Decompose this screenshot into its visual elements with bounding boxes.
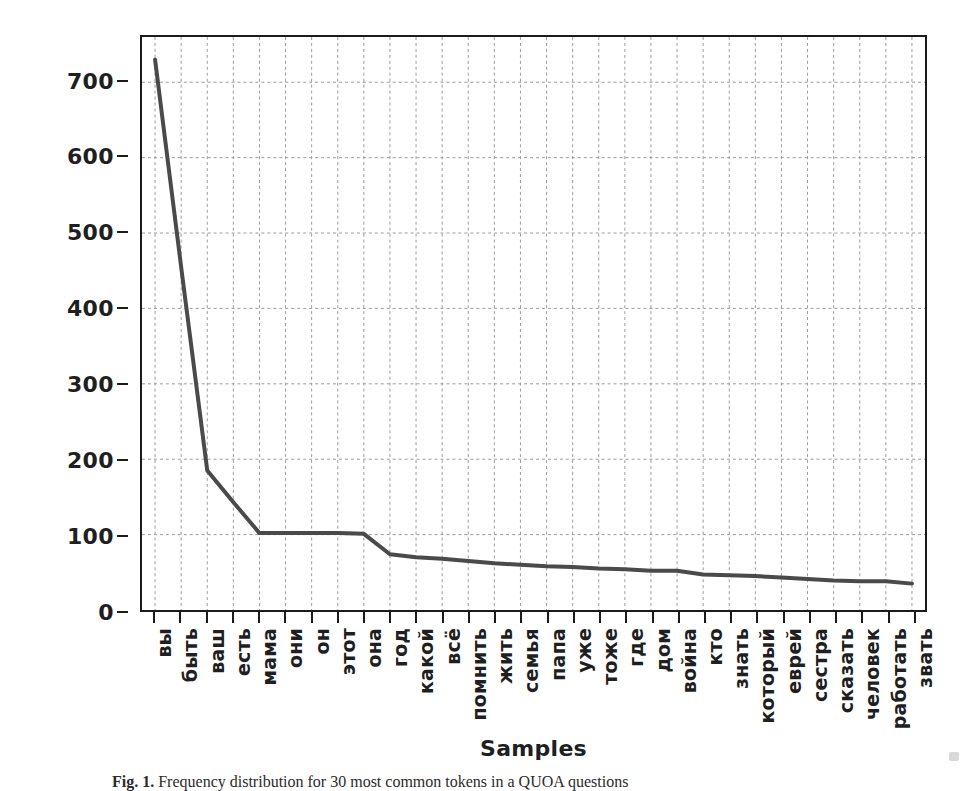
y-tick-mark [117,611,128,613]
caption-text: Frequency distribution for 30 most commo… [158,773,628,790]
y-tick-label: 0 [98,600,114,625]
data-series-line [142,37,925,610]
x-tick-label: папа [547,628,569,681]
x-tick-mark [809,612,811,623]
x-tick-mark [888,612,890,623]
x-tick-label: работать [888,628,910,729]
x-tick-label: они [284,628,306,668]
x-tick-label: сестра [809,628,831,702]
x-tick-mark [678,612,680,623]
x-tick-label: уже [573,628,595,673]
figure-caption: Fig. 1. Frequency distribution for 30 mo… [112,772,872,791]
y-tick-mark [117,80,128,82]
x-tick-mark [337,612,339,623]
x-tick-label: какой [415,628,437,694]
x-tick-mark [311,612,313,623]
x-tick-label: дом [652,628,674,673]
x-tick-label: знать [730,628,752,689]
x-tick-mark [232,612,234,623]
x-tick-mark [415,612,417,623]
x-tick-label: кто [704,628,726,666]
y-axis-ticks: 0100200300400500600700 [0,35,128,612]
caption-label: Fig. 1. [112,773,154,790]
scan-artifact [949,752,959,761]
y-tick-label: 300 [67,372,114,397]
x-tick-mark [520,612,522,623]
x-tick-label: еврей [783,628,805,694]
x-tick-mark [652,612,654,623]
y-tick-label: 400 [67,296,114,321]
x-tick-label: вы [153,628,175,658]
y-tick-label: 700 [67,68,114,93]
x-tick-mark [206,612,208,623]
y-tick-label: 200 [67,448,114,473]
y-tick-mark [117,459,128,461]
x-tick-label: он [311,628,333,655]
x-tick-mark [914,612,916,623]
x-tick-label: жить [494,628,516,684]
x-tick-mark [730,612,732,623]
x-tick-mark [153,612,155,623]
x-axis-title: Samples [140,736,927,761]
x-tick-label: год [389,628,411,667]
x-tick-label: помнить [468,628,490,721]
x-tick-label: война [678,628,700,693]
y-tick-label: 600 [67,144,114,169]
x-tick-mark [284,612,286,623]
x-tick-mark [756,612,758,623]
x-tick-mark [625,612,627,623]
x-tick-label: всё [442,628,464,665]
x-tick-mark [599,612,601,623]
x-tick-label: семья [520,628,542,693]
x-tick-label: она [363,628,385,668]
x-tick-label: человек [861,628,883,720]
y-tick-mark [117,535,128,537]
x-tick-mark [704,612,706,623]
y-tick-mark [117,155,128,157]
y-tick-label: 100 [67,524,114,549]
x-tick-mark [363,612,365,623]
x-tick-label: который [756,628,778,724]
x-tick-mark [573,612,575,623]
y-tick-label: 500 [67,220,114,245]
y-tick-mark [117,383,128,385]
plot-area [140,35,927,612]
x-tick-mark [861,612,863,623]
y-tick-mark [117,307,128,309]
x-axis-ticks: выбытьвашестьмамаонионэтотонагодкакойвсё… [140,612,927,742]
figure-container: 0100200300400500600700 Counts выбытьваше… [0,0,965,791]
x-tick-mark [179,612,181,623]
x-tick-label: звать [914,628,936,688]
x-tick-mark [258,612,260,623]
x-tick-mark [389,612,391,623]
x-tick-mark [835,612,837,623]
x-tick-label: где [625,628,647,667]
x-tick-label: этот [337,628,359,675]
x-tick-mark [494,612,496,623]
x-tick-label: есть [232,628,254,676]
x-tick-mark [468,612,470,623]
x-tick-label: мама [258,628,280,686]
x-tick-label: ваш [206,628,228,674]
x-tick-label: сказать [835,628,857,713]
x-tick-label: быть [179,628,201,682]
y-tick-mark [117,231,128,233]
x-tick-mark [783,612,785,623]
x-tick-mark [547,612,549,623]
x-tick-label: тоже [599,628,621,685]
x-tick-mark [442,612,444,623]
